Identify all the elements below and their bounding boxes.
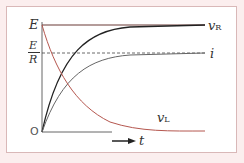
er-den-label: R bbox=[29, 54, 37, 65]
vr-curve bbox=[42, 25, 205, 132]
arrow-head-icon bbox=[128, 138, 136, 144]
vl-label: vL bbox=[157, 111, 170, 124]
vr-label: vR bbox=[208, 19, 221, 32]
e-tick-label: E bbox=[29, 18, 39, 31]
origin-label: O bbox=[30, 126, 39, 137]
i-label: i bbox=[210, 47, 214, 60]
t-axis-label: t bbox=[139, 134, 144, 147]
er-num-label: E bbox=[29, 40, 37, 51]
vl-curve bbox=[42, 25, 205, 131]
